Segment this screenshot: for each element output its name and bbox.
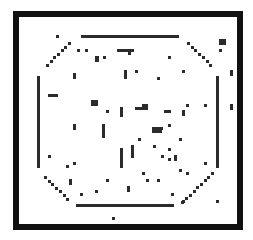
live-cell xyxy=(230,70,233,76)
live-cell xyxy=(73,73,76,79)
live-cell xyxy=(186,104,189,107)
live-cell xyxy=(168,158,171,161)
live-cell xyxy=(102,124,105,138)
diag-top-left-cell xyxy=(61,49,64,52)
live-cell xyxy=(182,70,185,73)
diag-top-right-cell xyxy=(202,56,205,59)
live-cell xyxy=(157,179,160,182)
live-cell xyxy=(182,110,185,116)
live-cell xyxy=(174,155,177,161)
live-cell xyxy=(95,190,98,193)
live-cell xyxy=(230,104,233,110)
live-cell xyxy=(56,35,59,38)
diag-top-left-cell xyxy=(50,60,53,63)
right-wall xyxy=(216,76,219,168)
live-cell xyxy=(69,179,72,185)
live-cell xyxy=(48,94,58,97)
diag-bottom-right-cell xyxy=(200,183,203,186)
live-cell xyxy=(124,70,127,79)
diag-top-left-cell xyxy=(46,64,49,67)
live-cell xyxy=(219,39,226,45)
diag-top-right-cell xyxy=(198,53,201,56)
diag-bottom-left-cell xyxy=(55,187,58,190)
live-cell xyxy=(106,110,109,113)
diag-bottom-right-cell xyxy=(207,176,210,179)
live-cell xyxy=(179,138,182,141)
live-cell xyxy=(106,179,109,182)
live-cell xyxy=(73,162,76,165)
live-cell xyxy=(146,179,149,182)
diag-bottom-left-cell xyxy=(51,183,54,186)
diag-bottom-left-cell xyxy=(66,198,69,201)
diag-top-right-cell xyxy=(209,64,212,67)
live-cell xyxy=(128,52,131,55)
live-cell xyxy=(85,49,88,52)
live-cell xyxy=(179,169,182,172)
diag-top-right-cell xyxy=(194,49,197,52)
diag-bottom-left-cell xyxy=(44,176,47,179)
board-frame xyxy=(13,11,243,230)
live-cell xyxy=(204,162,207,165)
live-cell xyxy=(80,193,83,196)
live-cell xyxy=(168,148,171,151)
left-wall xyxy=(37,76,40,168)
live-cell xyxy=(103,56,106,59)
live-cell xyxy=(77,49,80,52)
top-wall xyxy=(81,35,179,38)
live-cell xyxy=(138,138,141,141)
diag-top-right-cell xyxy=(206,60,209,63)
live-cell xyxy=(157,127,163,130)
diag-top-right-cell xyxy=(187,42,190,45)
live-cell xyxy=(120,148,123,168)
diag-bottom-right-cell xyxy=(204,179,207,182)
live-cell xyxy=(168,124,171,127)
diag-bottom-left-cell xyxy=(63,194,66,197)
live-cell xyxy=(73,124,76,130)
live-cell xyxy=(120,107,123,117)
live-cell xyxy=(186,172,189,175)
diag-top-left-cell xyxy=(64,46,67,49)
live-cell xyxy=(142,104,148,110)
live-cell xyxy=(95,56,99,62)
diag-top-left-cell xyxy=(53,56,56,59)
live-cell xyxy=(182,200,185,203)
live-cell xyxy=(153,145,156,148)
diag-bottom-right-cell xyxy=(196,186,199,189)
diag-top-left-cell xyxy=(57,53,60,56)
live-cell xyxy=(135,70,138,73)
live-cell xyxy=(117,49,134,52)
live-cell xyxy=(127,186,130,192)
diag-bottom-right-cell xyxy=(185,197,188,200)
live-cell xyxy=(66,165,69,168)
diag-top-left-cell xyxy=(68,42,71,45)
live-cell xyxy=(164,110,171,113)
live-cell xyxy=(157,77,160,80)
live-cell xyxy=(112,217,115,220)
live-cell xyxy=(131,145,134,158)
live-cell xyxy=(142,172,145,175)
live-cell xyxy=(168,56,171,59)
live-cell xyxy=(161,155,164,158)
live-cell xyxy=(91,100,98,106)
bottom-wall xyxy=(76,204,174,207)
live-cell xyxy=(219,49,222,52)
diag-bottom-right-cell xyxy=(211,172,214,175)
live-cell xyxy=(48,155,51,158)
live-cell xyxy=(171,193,174,196)
diag-bottom-right-cell xyxy=(189,194,192,197)
diag-bottom-right-cell xyxy=(193,190,196,193)
diag-bottom-left-cell xyxy=(59,190,62,193)
live-cell xyxy=(204,104,207,107)
live-cell xyxy=(216,200,219,203)
